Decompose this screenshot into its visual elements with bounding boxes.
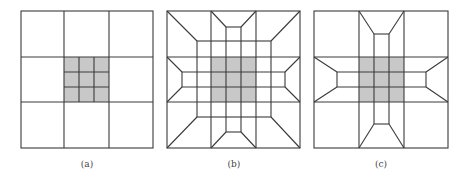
panel-b-label: (b) xyxy=(228,159,241,169)
shaded-refined-region xyxy=(359,57,404,102)
panel-a-label: (a) xyxy=(81,159,93,169)
panel-a: (a) xyxy=(21,11,153,169)
mesh-refinement-figure: (a) (b) xyxy=(0,0,466,179)
shaded-refined-region xyxy=(64,57,109,102)
panel-c: (c) xyxy=(314,11,448,169)
shaded-refined-region xyxy=(211,57,256,102)
panel-c-label: (c) xyxy=(375,159,387,169)
panel-b: (b) xyxy=(167,11,300,169)
